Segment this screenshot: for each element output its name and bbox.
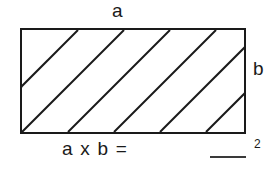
formula-row: a x b = 2 <box>0 136 278 170</box>
height-dimension-label: b <box>253 59 264 78</box>
area-formula-expression: a x b = <box>62 138 128 160</box>
answer-blank-line[interactable] <box>210 156 246 158</box>
unit-exponent-label: 2 <box>254 138 261 150</box>
width-dimension-label: a <box>112 1 123 20</box>
area-figure: a b a x b = 2 <box>0 0 278 184</box>
diagonal-hatch-pattern <box>22 30 244 132</box>
hatched-rectangle <box>20 28 246 134</box>
